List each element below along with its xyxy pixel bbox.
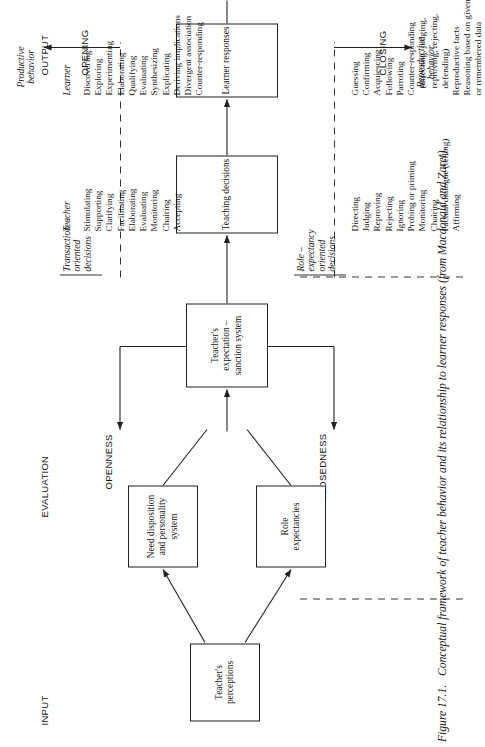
- learner-reproductive-item: Counter-responding: [406, 0, 417, 95]
- learner-productive-item: Explicating: [161, 15, 172, 95]
- teacher-open-item: Supporting: [93, 188, 104, 231]
- label-teacher: Teacher: [62, 201, 72, 231]
- teacher-open-item: Clarifying: [104, 188, 115, 231]
- bracket-tick-transaction: [60, 274, 102, 275]
- teacher-closed-item: Monitoring: [417, 138, 428, 231]
- learner-reproductive-item: Reproductive facts: [451, 0, 462, 95]
- learner-reproductive-item: or remembered data: [473, 0, 484, 95]
- learner-productive-item: Divergent association: [183, 15, 194, 95]
- learner-productive-item: Deriving implications: [172, 15, 183, 95]
- label-role-expectancy-oriented-decisions: Role – expectancy oriented decisions: [296, 229, 337, 271]
- learner-productive-item: Evaluating: [138, 15, 149, 95]
- learner-reproductive-item: Reasoning based on given: [462, 0, 473, 95]
- list-learner-reproductive: GuessingConfirmingAcquiescingFollowingPa…: [350, 0, 485, 95]
- learner-productive-item: Counter-responding: [194, 15, 205, 95]
- bracket-tick-role-expectancy: [294, 274, 346, 275]
- box-teaching-decisions: Teaching decisions: [176, 155, 278, 233]
- teacher-open-item: Facilitating: [116, 188, 127, 231]
- learner-reproductive-item: Confirming: [361, 0, 372, 95]
- label-evaluation: EVALUATION: [40, 455, 50, 517]
- label-output: OUTPUT: [40, 34, 50, 75]
- learner-productive-item: Discovering: [82, 15, 93, 95]
- label-openness: OPENNESS: [104, 434, 114, 489]
- box-teaching-decisions-label: Teaching decisions: [221, 158, 232, 229]
- learner-reproductive-item: Acquiescing: [372, 0, 383, 95]
- teacher-closed-item: Judging: [361, 138, 372, 231]
- label-input: INPUT: [40, 695, 50, 725]
- learner-productive-item: Synthesizing: [149, 15, 160, 95]
- box-expectation-sanction-system: Teacher's expectation – sanction system: [186, 303, 268, 387]
- learner-productive-item: Exploring: [93, 15, 104, 95]
- teacher-closed-item: Directing: [350, 138, 361, 231]
- figure-caption: Figure 17.1. Conceptual framework of tea…: [436, 42, 449, 742]
- teacher-closed-item: Rejecting: [384, 138, 395, 231]
- label-learner: Learner: [62, 64, 72, 95]
- box-teachers-perceptions: Teacher's perceptions: [190, 643, 260, 721]
- learner-reproductive-item: Guessing: [350, 0, 361, 95]
- teacher-open-item: Chairing: [161, 188, 172, 231]
- teacher-open-item: Elaborating: [127, 188, 138, 231]
- teacher-closed-item: Ignoring: [395, 138, 406, 231]
- learner-reproductive-item: Parroting: [395, 0, 406, 95]
- teacher-closed-item: Reproving: [372, 138, 383, 231]
- box-need-disposition-label: Need disposition and personality system: [146, 494, 180, 557]
- teacher-closed-item: Affirming: [451, 138, 462, 231]
- box-role-expectancies-label: Role expectancies: [280, 502, 303, 550]
- teacher-open-item: Stimulating: [82, 188, 93, 231]
- learner-productive-item: Experimenting: [104, 15, 115, 95]
- teacher-closed-item: Probing or priming: [406, 138, 417, 231]
- box-need-disposition: Need disposition and personality system: [128, 485, 198, 567]
- label-productive-behavior: Productive behavior: [16, 46, 37, 87]
- teacher-open-item: Monitoring: [149, 188, 160, 231]
- box-expectation-sanction-system-label: Teacher's expectation – sanction system: [210, 306, 244, 384]
- list-learner-productive: DiscoveringExploringExperimentingElabora…: [82, 15, 205, 95]
- learner-productive-item: Elaborating: [116, 15, 127, 95]
- box-learner-responses-label: Learner responses: [221, 26, 232, 94]
- figure-caption-text: Conceptual framework of teacher behavior…: [436, 147, 449, 676]
- list-teacher-open: StimulatingSupportingClarifyingFacilitat…: [82, 188, 183, 231]
- box-role-expectancies: Role expectancies: [256, 485, 326, 567]
- learner-productive-item: Qualifying: [127, 15, 138, 95]
- box-teachers-perceptions-label: Teacher's perceptions: [214, 660, 237, 703]
- figure-number: Figure 17.1.: [436, 685, 449, 742]
- teacher-open-item: Evaluating: [138, 188, 149, 231]
- teacher-open-item: Accepting: [172, 188, 183, 231]
- learner-reproductive-item: Following: [384, 0, 395, 95]
- learner-reproductive-item: (directing, judging,: [417, 0, 428, 95]
